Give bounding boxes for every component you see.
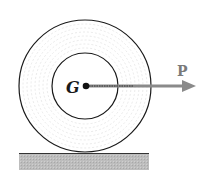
center-point-icon: [83, 83, 90, 90]
label-g: G: [66, 78, 80, 97]
ground: [19, 153, 149, 170]
label-p: P: [177, 63, 188, 79]
wheel-diagram: G P: [0, 0, 212, 176]
